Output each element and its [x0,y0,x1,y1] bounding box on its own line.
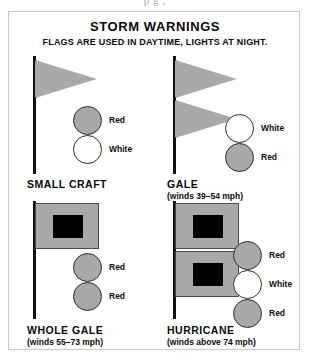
light-circle-red [73,106,102,135]
light-circle-white [73,135,102,164]
light-circle-white [233,270,262,299]
caption-hurricane: HURRICANE (winds above 74 mph) [167,324,256,347]
light-circle-red [73,282,102,311]
page-title: STORM WARNINGS [9,19,301,34]
page-subtitle: FLAGS ARE USED IN DAYTIME, LIGHTS AT NIG… [9,37,301,47]
light-label: Red [261,152,277,162]
warning-name: SMALL CRAFT [27,178,107,190]
warning-small-craft: Red White SMALL CRAFT [15,54,161,199]
warning-wind-range: (winds 55–73 mph) [27,337,103,347]
warning-name: HURRICANE [167,324,256,336]
flag-center-square [193,263,223,286]
caption-small-craft: SMALL CRAFT [27,178,107,191]
storm-warnings-chart: STORM WARNINGS FLAGS ARE USED IN DAYTIME… [8,11,300,350]
warning-hurricane: Red White Red HURRICANE (winds above 74 … [155,197,301,342]
pennant-flag [175,60,237,98]
caption-whole-gale: WHOLE GALE (winds 55–73 mph) [27,324,103,347]
square-flag [175,203,239,249]
pennant-flag [35,60,97,98]
warning-name: WHOLE GALE [27,324,103,336]
flag-center-square [53,215,83,238]
square-flag [35,203,99,249]
square-flag [175,251,239,297]
light-label: White [109,144,132,154]
light-circle-red [225,143,254,172]
warning-gale: White Red GALE (winds 39–54 mph) [155,54,301,199]
light-circle-red [73,253,102,282]
warning-wind-range: (winds above 74 mph) [167,337,256,347]
light-label: Red [109,262,125,272]
light-label: White [261,123,284,133]
flag-center-square [193,215,223,238]
light-circle-red [233,241,262,270]
light-label: Red [109,115,125,125]
scan-bleed-text: p g , [0,0,309,6]
light-label: Red [269,308,285,318]
warning-name: GALE [167,178,243,190]
warning-whole-gale: Red Red WHOLE GALE (winds 55–73 mph) [15,197,161,342]
light-label: White [269,279,292,289]
light-label: Red [109,291,125,301]
light-label: Red [269,250,285,260]
light-circle-white [225,114,254,143]
